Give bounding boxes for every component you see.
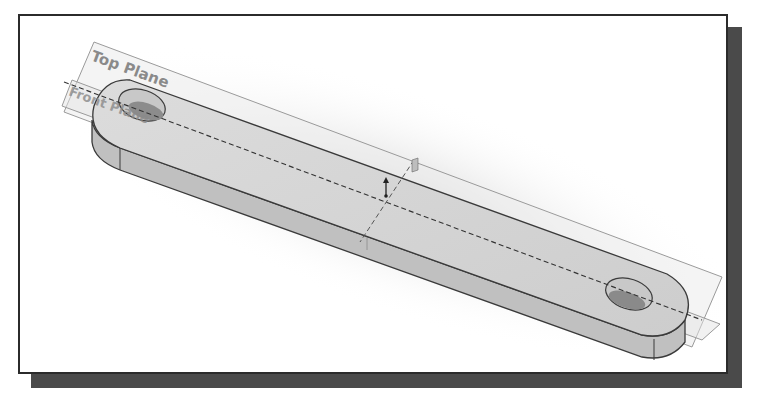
right-plane-tab xyxy=(412,158,418,172)
figure-frame: Top Plane Front Plane xyxy=(18,14,728,374)
link-bar-model: Top Plane Front Plane xyxy=(20,16,726,372)
